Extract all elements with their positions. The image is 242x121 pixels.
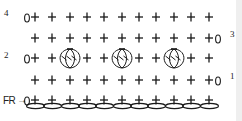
chart-graphic [0, 0, 242, 121]
sc-stitch-icon [187, 34, 195, 43]
sc-stitch-icon [152, 76, 160, 85]
sc-stitch-icon [187, 76, 195, 85]
sc-stitch-icon [118, 13, 126, 22]
sc-stitch-icon [100, 54, 108, 63]
sc-stitch-icon [48, 13, 56, 22]
sc-stitch-icon [66, 13, 74, 22]
sc-stitch-icon [66, 34, 74, 43]
sc-stitch-icon [31, 34, 39, 43]
sc-stitch-icon [118, 34, 126, 43]
sc-stitch-icon [83, 54, 91, 63]
sc-stitch-icon [187, 54, 195, 63]
bobble-stitch-icon [60, 49, 80, 68]
sc-stitch-icon [48, 76, 56, 85]
sc-stitch-icon [170, 13, 178, 22]
sc-stitch-icon [83, 76, 91, 85]
sc-stitch-icon [100, 13, 108, 22]
sc-stitch-icon [135, 76, 143, 85]
sc-stitch-icon [31, 13, 39, 22]
crochet-chart: 4 3 2 1 FR → [0, 0, 242, 121]
sc-stitch-icon [170, 34, 178, 43]
sc-stitch-icon [31, 76, 39, 85]
sc-stitch-icon [205, 54, 213, 63]
sc-stitch-icon [135, 13, 143, 22]
turning-chain-icon [25, 14, 30, 22]
sc-stitch-icon [135, 34, 143, 43]
sc-stitch-icon [83, 13, 91, 22]
turning-chain-icon [25, 55, 30, 63]
sc-stitch-icon [118, 76, 126, 85]
sc-stitch-icon [48, 54, 56, 63]
sc-stitch-icon [66, 76, 74, 85]
sc-stitch-icon [205, 34, 213, 43]
sc-stitch-icon [152, 54, 160, 63]
sc-stitch-icon [152, 13, 160, 22]
sc-stitch-icon [135, 54, 143, 63]
sc-stitch-icon [48, 34, 56, 43]
sc-stitch-icon [83, 34, 91, 43]
sc-stitch-icon [170, 76, 178, 85]
bobble-stitch-icon [112, 49, 132, 68]
sc-stitch-icon [100, 34, 108, 43]
turning-chain-icon [216, 77, 221, 85]
sc-stitch-icon [187, 13, 195, 22]
turning-chain-icon [216, 35, 221, 43]
sc-stitch-icon [31, 54, 39, 63]
sc-stitch-icon [205, 13, 213, 22]
sc-stitch-icon [152, 34, 160, 43]
sc-stitch-icon [205, 76, 213, 85]
sc-stitch-icon [100, 76, 108, 85]
bobble-stitch-icon [164, 49, 184, 68]
